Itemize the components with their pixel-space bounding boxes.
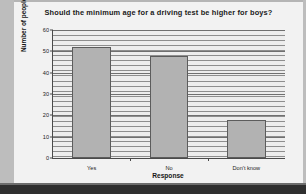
y-axis-tick-label: 20: [43, 112, 49, 118]
bar-chart-figure: Should the minimum age for a driving tes…: [14, 2, 303, 185]
x-axis-tick-label: Yes: [87, 165, 96, 171]
bar: [150, 56, 189, 158]
x-axis-tick-mark: [130, 158, 131, 161]
page-left-margin: [0, 0, 14, 185]
bar: [72, 47, 111, 158]
y-axis-tick-label: 60: [43, 27, 49, 33]
y-axis-tick-label: 10: [43, 134, 49, 140]
y-axis-tick-label: 40: [43, 70, 49, 76]
y-axis-title: Number of people: [20, 0, 27, 52]
x-axis-tick-label: Don't know: [233, 165, 261, 171]
page-bottom-band: [0, 185, 306, 194]
plot-area: 0102030405060 YesNoDon't know: [52, 30, 285, 159]
y-axis-tick-label: 50: [43, 48, 49, 54]
y-axis-tick-label: 0: [46, 155, 49, 161]
x-axis-tick-label: No: [165, 165, 172, 171]
x-axis-title: Response: [52, 172, 284, 179]
scanned-page: Should the minimum age for a driving tes…: [0, 0, 306, 194]
chart-title: Should the minimum age for a driving tes…: [14, 8, 303, 17]
y-axis-tick-label: 30: [43, 91, 49, 97]
x-axis-tick-mark: [208, 158, 209, 161]
bar: [227, 120, 266, 158]
page-right-margin: [303, 0, 306, 185]
bars-layer: [53, 30, 285, 158]
